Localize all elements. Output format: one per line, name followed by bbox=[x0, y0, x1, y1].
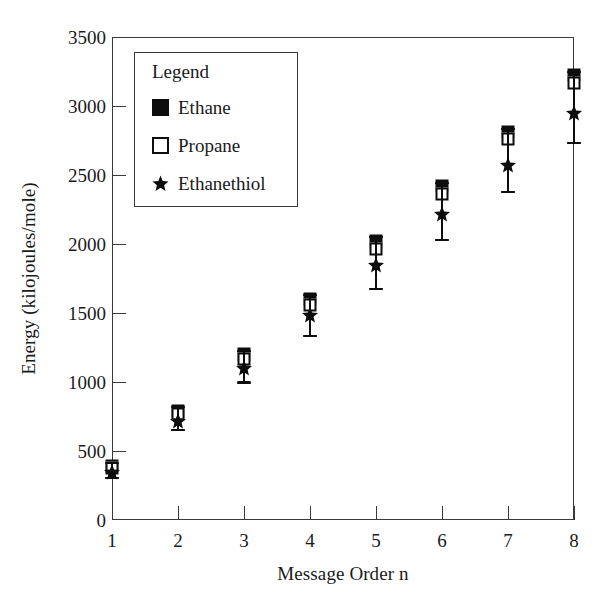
y-tick-label: 1500 bbox=[34, 304, 106, 323]
open-square-icon bbox=[152, 137, 169, 154]
x-tick-label: 1 bbox=[92, 531, 132, 550]
x-tick-label: 6 bbox=[422, 531, 462, 550]
legend-entry-ethanethiol: Ethanethiol bbox=[152, 170, 266, 196]
x-tick-label: 8 bbox=[554, 531, 594, 550]
legend-entry-propane: Propane bbox=[152, 132, 240, 158]
chart-legend: Legend Ethane Propane Ethanethiol bbox=[134, 52, 298, 207]
y-tick-label: 3500 bbox=[34, 28, 106, 47]
legend-entry-label: Ethanethiol bbox=[178, 174, 266, 193]
y-tick-label: 2500 bbox=[34, 166, 106, 185]
legend-title: Legend bbox=[152, 61, 209, 83]
y-tick-label: 2000 bbox=[34, 235, 106, 254]
star-icon bbox=[152, 175, 169, 192]
x-tick-label: 3 bbox=[224, 531, 264, 550]
y-tick-label: 1000 bbox=[34, 373, 106, 392]
x-tick-mark bbox=[574, 506, 575, 520]
legend-entry-ethane: Ethane bbox=[152, 94, 231, 120]
x-axis-tick-labels: 12345678 bbox=[0, 531, 612, 557]
x-tick-label: 5 bbox=[356, 531, 396, 550]
y-tick-label: 500 bbox=[34, 442, 106, 461]
filled-square-icon bbox=[152, 99, 169, 116]
legend-entry-label: Ethane bbox=[178, 98, 231, 117]
x-tick-label: 7 bbox=[488, 531, 528, 550]
chart-figure: Energy (kilojoules/mole) 050010001500200… bbox=[0, 0, 612, 607]
x-tick-label: 2 bbox=[158, 531, 198, 550]
y-tick-label: 0 bbox=[34, 511, 106, 530]
y-axis-tick-labels: 0500100015002000250030003500 bbox=[26, 0, 106, 607]
legend-entry-label: Propane bbox=[178, 136, 240, 155]
x-axis-title: Message Order n bbox=[112, 563, 574, 585]
y-tick-label: 3000 bbox=[34, 97, 106, 116]
x-tick-label: 4 bbox=[290, 531, 330, 550]
